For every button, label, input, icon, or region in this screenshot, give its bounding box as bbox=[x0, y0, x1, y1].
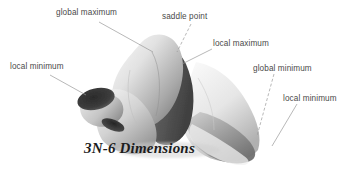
annotation-label-global-maximum: global maximum bbox=[56, 8, 117, 18]
annotation-label-saddle-point: saddle point bbox=[162, 12, 207, 22]
annotation-label-local-maximum: local maximum bbox=[213, 39, 269, 49]
annotation-label-local-minimum-right: local minimum bbox=[283, 94, 337, 104]
leader-global-minimum bbox=[257, 74, 274, 136]
leader-local-minimum-right bbox=[272, 104, 297, 146]
leader-saddle-point bbox=[177, 24, 191, 52]
annotation-label-local-minimum-left: local minimum bbox=[10, 62, 64, 72]
leader-local-minimum-left bbox=[50, 75, 86, 95]
figure-caption: 3N-6 Dimensions bbox=[84, 140, 195, 157]
figure-canvas: global maximum saddle point local maximu… bbox=[0, 0, 358, 177]
leader-local-maximum bbox=[182, 49, 212, 64]
annotation-label-global-minimum: global minimum bbox=[253, 64, 312, 74]
leader-global-maximum bbox=[99, 22, 153, 52]
